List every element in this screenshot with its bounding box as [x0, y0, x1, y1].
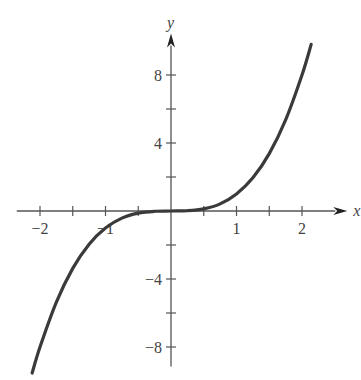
y-axis-label: y: [165, 14, 175, 32]
x-axis-label: x: [352, 202, 360, 219]
y-tick-label: 8: [154, 67, 162, 84]
x-tick-label: 2: [298, 220, 306, 237]
y-tick-label: −4: [145, 271, 162, 288]
axes: x y: [17, 14, 361, 367]
cubic-function-chart: x y −2−11284−4−8: [0, 0, 361, 380]
x-axis-arrow: [333, 207, 347, 215]
x-tick-label: 1: [233, 220, 241, 237]
y-tick-label: 4: [154, 135, 162, 152]
x-tick-label: −2: [31, 220, 48, 237]
y-tick-label: −8: [145, 339, 162, 356]
y-axis-arrow: [167, 34, 175, 48]
